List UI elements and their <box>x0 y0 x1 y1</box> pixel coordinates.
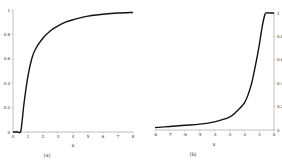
x-tick-label: 2 <box>42 134 45 139</box>
x-tick-label: -7 <box>168 132 172 137</box>
y-tick-label: 0.4 <box>4 81 11 86</box>
x-tick-label: 3 <box>57 134 60 139</box>
x-tick-label: -8 <box>153 132 157 137</box>
x-tick-label: 8 <box>132 134 135 139</box>
y-tick-label: 0.2 <box>4 105 11 110</box>
x-tick-label: 1 <box>27 134 30 139</box>
x-tick-label: 6 <box>102 134 105 139</box>
curve-a <box>13 12 133 132</box>
x-tick-label: -4 <box>213 132 217 137</box>
y-tick-label: 0.8 <box>4 32 11 37</box>
y-tick-label: 1 <box>277 11 280 16</box>
x-tick-label: -5 <box>198 132 202 137</box>
y-tick-label: 0.2 <box>277 104 282 109</box>
y-tick-label: 0.6 <box>277 57 282 62</box>
y-tick-label: 0.4 <box>277 81 282 86</box>
curve-b <box>155 13 274 128</box>
ticks-b: -8-7-6-5-4-3-2-1000.20.40.60.81 <box>153 11 282 138</box>
chart-canvas: 01234567800.20.40.60.81 x (a) -8-7-6-5-4… <box>0 0 282 165</box>
x-tick-label: -3 <box>227 132 231 137</box>
y-tick-label: 0 <box>277 128 280 133</box>
x-tick-label: -1 <box>257 132 261 137</box>
y-tick-label: 0.8 <box>277 34 282 39</box>
x-tick-label: -6 <box>183 132 187 137</box>
y-tick-label: 0 <box>7 130 10 135</box>
ticks-a: 01234567800.20.40.60.81 <box>4 8 135 140</box>
x-tick-label: 7 <box>117 134 120 139</box>
x-tick-label: 5 <box>87 134 90 139</box>
panel-b: -8-7-6-5-4-3-2-1000.20.40.60.81 x (b) <box>153 11 282 158</box>
x-tick-label: -2 <box>242 132 246 137</box>
panel-a: 01234567800.20.40.60.81 x (a) <box>4 8 135 159</box>
x-tick-label: 0 <box>273 132 276 137</box>
y-tick-label: 0.6 <box>4 56 11 61</box>
x-tick-label: 0 <box>12 134 15 139</box>
panel-label-a: (a) <box>44 152 51 158</box>
x-tick-label: 4 <box>72 134 75 139</box>
y-tick-label: 1 <box>7 8 10 13</box>
panel-label-b: (b) <box>189 151 196 157</box>
x-axis-label-b: x <box>213 141 216 147</box>
x-axis-label-a: x <box>72 142 75 148</box>
